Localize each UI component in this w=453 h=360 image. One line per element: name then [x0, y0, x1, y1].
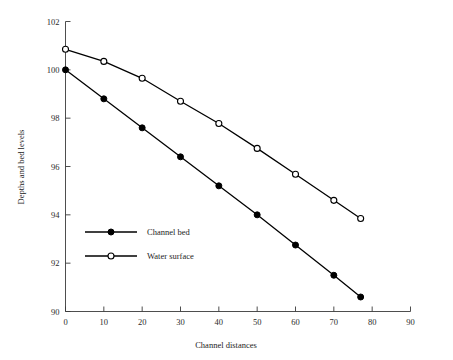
- open-circle-marker: [358, 215, 364, 221]
- series-water-surface: [63, 46, 364, 221]
- filled-circle-marker: [216, 183, 222, 189]
- chart-figure: 9092949698100102 0102030405060708090 Cha…: [0, 0, 453, 360]
- series-line: [66, 70, 361, 297]
- line-chart-canvas: 9092949698100102 0102030405060708090 Cha…: [0, 0, 453, 360]
- legend-label: Channel bed: [147, 227, 190, 237]
- y-tick-label: 100: [47, 65, 60, 75]
- series-line: [66, 49, 361, 218]
- filled-circle-marker: [178, 154, 184, 160]
- filled-circle-marker: [108, 229, 114, 235]
- open-circle-marker: [63, 46, 69, 52]
- open-circle-marker: [293, 171, 299, 177]
- x-axis-ticks: [66, 307, 411, 312]
- y-axis-tick-labels: 9092949698100102: [47, 17, 61, 317]
- filled-circle-marker: [63, 67, 69, 73]
- filled-circle-marker: [331, 272, 337, 278]
- x-tick-label: 10: [100, 317, 109, 327]
- y-tick-label: 102: [47, 17, 60, 27]
- x-tick-label: 90: [406, 317, 415, 327]
- legend-label: Water surface: [147, 251, 194, 261]
- filled-circle-marker: [101, 96, 107, 102]
- filled-circle-marker: [293, 242, 299, 248]
- x-axis-title: Channel distances: [195, 340, 257, 350]
- y-tick-label: 90: [51, 307, 60, 317]
- y-tick-label: 98: [51, 113, 60, 123]
- y-axis-ticks: [66, 22, 71, 312]
- x-tick-label: 80: [368, 317, 377, 327]
- x-tick-label: 50: [253, 317, 262, 327]
- x-tick-label: 0: [63, 317, 67, 327]
- y-axis-title: Depths and bed levels: [16, 130, 26, 205]
- x-tick-label: 40: [215, 317, 224, 327]
- chart-legend: Channel bedWater surface: [85, 227, 194, 261]
- x-tick-label: 70: [330, 317, 339, 327]
- y-tick-label: 94: [51, 210, 60, 220]
- open-circle-marker: [101, 58, 107, 64]
- open-circle-marker: [331, 197, 337, 203]
- data-series-group: [63, 46, 364, 300]
- legend-entry: Channel bed: [85, 227, 190, 237]
- filled-circle-marker: [139, 125, 145, 131]
- open-circle-marker: [139, 75, 145, 81]
- x-tick-label: 30: [176, 317, 185, 327]
- x-axis-tick-labels: 0102030405060708090: [63, 317, 414, 327]
- x-tick-label: 60: [291, 317, 300, 327]
- open-circle-marker: [254, 145, 260, 151]
- x-tick-label: 20: [138, 317, 147, 327]
- y-tick-label: 96: [51, 162, 60, 172]
- legend-entry: Water surface: [85, 251, 194, 261]
- open-circle-marker: [178, 98, 184, 104]
- series-channel-bed: [63, 67, 364, 300]
- filled-circle-marker: [358, 294, 364, 300]
- open-circle-marker: [108, 253, 114, 259]
- open-circle-marker: [216, 120, 222, 126]
- y-tick-label: 92: [51, 258, 60, 268]
- filled-circle-marker: [254, 212, 260, 218]
